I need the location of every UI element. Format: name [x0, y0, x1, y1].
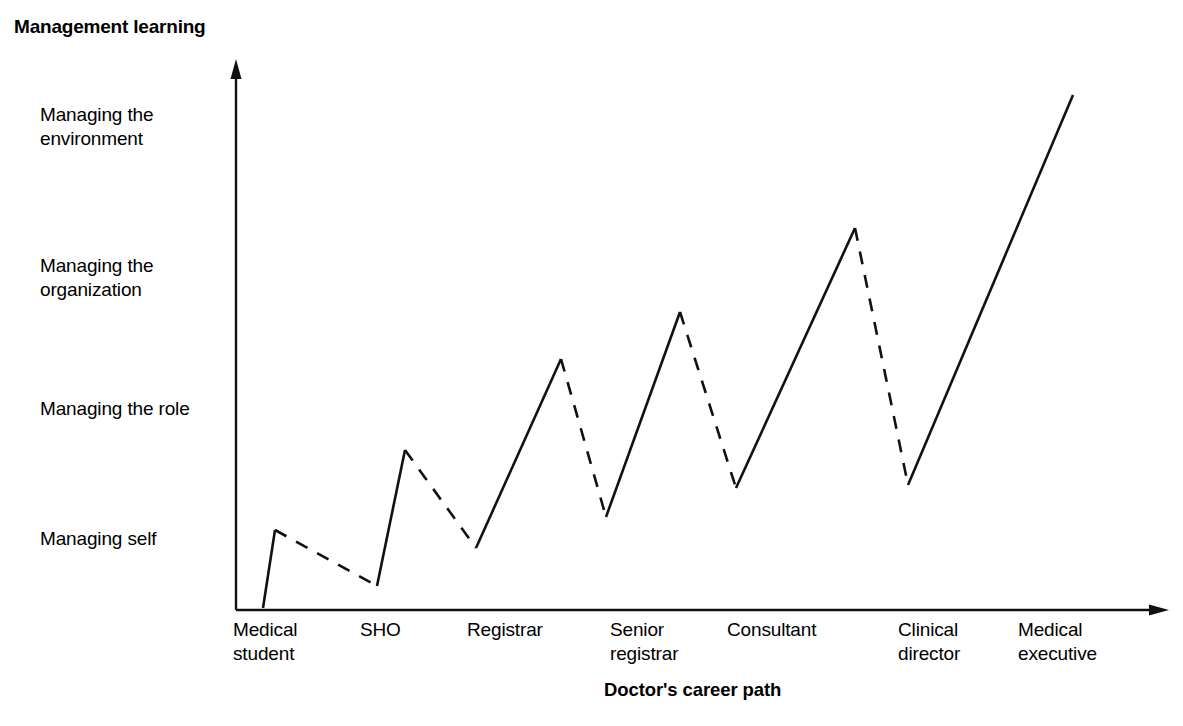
series-segment-dashed-1 [275, 530, 377, 586]
series-segment-solid-0 [263, 530, 275, 608]
data-series-sawtooth [263, 95, 1073, 608]
series-segment-solid-10 [908, 95, 1073, 485]
series-segment-dashed-9 [855, 228, 908, 485]
y-axis-label-managing-self: Managing self [40, 527, 245, 551]
x-axis-label-consultant: Consultant [727, 618, 816, 642]
series-segment-solid-6 [606, 312, 680, 517]
series-segment-solid-4 [476, 359, 561, 548]
series-segment-solid-8 [736, 228, 855, 488]
y-axis-label-managing-the-organization: Managing the organization [40, 254, 245, 303]
x-axis-label-sho: SHO [360, 618, 401, 642]
x-axis-label-clinical-director: Clinical director [898, 618, 960, 667]
figure-container: Management learning Managing the environ… [0, 0, 1183, 726]
y-axis-label-managing-the-role: Managing the role [40, 397, 255, 421]
series-segment-dashed-5 [561, 359, 606, 517]
x-axis-title: Doctor's career path [604, 679, 781, 701]
x-axis-arrowhead [1149, 605, 1169, 616]
x-axis-label-medical-executive: Medical executive [1018, 618, 1097, 667]
x-axis-label-registrar: Registrar [467, 618, 543, 642]
series-segment-dashed-7 [680, 312, 736, 488]
page-title: Management learning [14, 16, 206, 38]
series-segment-dashed-3 [405, 450, 476, 548]
y-axis-label-managing-the-environment: Managing the environment [40, 103, 245, 152]
series-segment-solid-2 [377, 450, 405, 586]
x-axis-label-senior-registrar: Senior registrar [610, 618, 678, 667]
y-axis-arrowhead [231, 59, 242, 79]
x-axis-label-medical-student: Medical student [233, 618, 297, 667]
